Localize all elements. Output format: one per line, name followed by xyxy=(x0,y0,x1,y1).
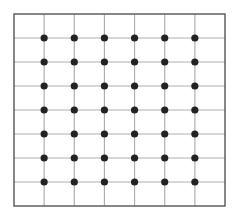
grid-dot xyxy=(101,154,108,161)
grid-dot xyxy=(161,82,168,89)
grid-dot xyxy=(101,130,108,137)
grid-dot xyxy=(131,130,138,137)
grid-dot xyxy=(131,34,138,41)
grid-dot xyxy=(161,154,168,161)
grid-dot xyxy=(131,58,138,65)
grid-dot xyxy=(101,106,108,113)
grid-dot xyxy=(71,154,78,161)
grid-dot xyxy=(101,82,108,89)
grid-dot xyxy=(161,34,168,41)
grid-dot xyxy=(71,82,78,89)
grid-dot xyxy=(101,58,108,65)
grid-dot xyxy=(191,106,198,113)
grid-dot xyxy=(41,34,48,41)
grid-dot xyxy=(71,130,78,137)
grid-dot xyxy=(71,106,78,113)
grid-diagram xyxy=(0,0,238,219)
grid-dot xyxy=(41,154,48,161)
grid-dot xyxy=(71,34,78,41)
grid-dot xyxy=(161,58,168,65)
grid-dot xyxy=(131,106,138,113)
grid-dot xyxy=(191,34,198,41)
grid-dot xyxy=(41,58,48,65)
grid-dot xyxy=(131,82,138,89)
grid-dot xyxy=(161,130,168,137)
grid-dot xyxy=(131,178,138,185)
grid-dot xyxy=(71,178,78,185)
grid-dot xyxy=(161,178,168,185)
grid-dot xyxy=(191,178,198,185)
grid-dot xyxy=(161,106,168,113)
grid-dot xyxy=(41,106,48,113)
grid-dot xyxy=(191,82,198,89)
grid-dot xyxy=(71,58,78,65)
grid-dot xyxy=(101,34,108,41)
grid-dot xyxy=(191,130,198,137)
grid-dot xyxy=(41,178,48,185)
grid-dot xyxy=(131,154,138,161)
grid-dot xyxy=(191,58,198,65)
grid-dot xyxy=(41,82,48,89)
grid-dot xyxy=(191,154,198,161)
grid-dot xyxy=(41,130,48,137)
grid-dot xyxy=(101,178,108,185)
